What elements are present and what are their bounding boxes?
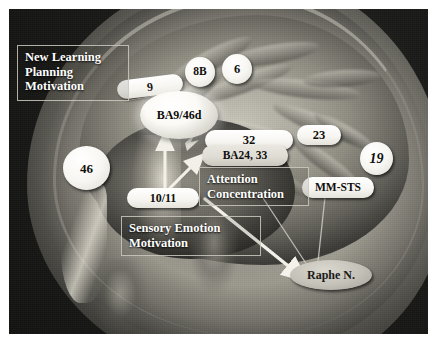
label-ba6-text: 6	[234, 63, 240, 76]
label-ba2433-text: BA24, 33	[223, 150, 268, 162]
label-ba946d[interactable]: BA9/46d	[140, 91, 218, 139]
label-ba9-text: 9	[146, 80, 153, 93]
figure-root: 9 8B 6 BA9/46d 46 32 23 19 BA24, 33 MM-S…	[0, 0, 437, 343]
label-ba23-text: 23	[313, 129, 326, 142]
label-ba19-text: 19	[370, 152, 384, 166]
label-ba1011-text: 10/11	[150, 192, 177, 204]
label-ba946d-text: BA9/46d	[157, 109, 202, 121]
label-ba46[interactable]: 46	[63, 146, 110, 190]
box-attention-line2: Concentration	[207, 187, 302, 202]
label-mmsts-text: MM-STS	[315, 182, 361, 194]
label-ba46-text: 46	[80, 162, 93, 175]
box-new-learning-line1: New Learning	[25, 50, 122, 65]
box-sensory[interactable]: Sensory Emotion Motivation	[121, 216, 261, 256]
box-sensory-line1: Sensory Emotion	[129, 221, 254, 236]
label-ba8b[interactable]: 8B	[185, 57, 215, 87]
box-new-learning-line2: Planning	[25, 65, 122, 80]
box-new-learning[interactable]: New Learning Planning Motivation	[17, 45, 129, 101]
box-new-learning-line3: Motivation	[25, 79, 122, 94]
label-ba19[interactable]: 19	[360, 142, 393, 175]
mri-photo-panel: 9 8B 6 BA9/46d 46 32 23 19 BA24, 33 MM-S…	[9, 9, 428, 334]
box-sensory-line2: Motivation	[129, 236, 254, 251]
box-attention-line1: Attention	[207, 172, 302, 187]
label-raphe-text: Raphe N.	[307, 269, 355, 281]
label-ba2433[interactable]: BA24, 33	[202, 145, 288, 166]
label-ba1011[interactable]: 10/11	[127, 188, 199, 208]
label-raphe[interactable]: Raphe N.	[290, 260, 372, 290]
label-ba8b-text: 8B	[193, 66, 206, 78]
label-ba23[interactable]: 23	[297, 125, 341, 145]
label-mmsts[interactable]: MM-STS	[302, 177, 374, 198]
label-ba6[interactable]: 6	[222, 54, 252, 84]
box-attention[interactable]: Attention Concentration	[199, 167, 309, 206]
